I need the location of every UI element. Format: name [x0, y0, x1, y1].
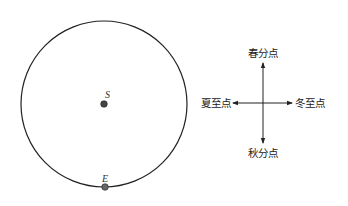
- summer-solstice-label: 夏至点: [201, 97, 231, 109]
- earth-point: E: [101, 173, 108, 190]
- sun-point: S: [101, 89, 110, 107]
- orbit-diagram: S E 春分点 秋分点 夏至点 冬至点: [0, 0, 348, 206]
- earth-label: E: [101, 173, 108, 184]
- vernal-equinox-label: 春分点: [248, 47, 278, 59]
- autumnal-equinox-label: 秋分点: [248, 147, 278, 159]
- sun-label: S: [105, 89, 110, 100]
- compass: 春分点 秋分点 夏至点 冬至点: [201, 47, 325, 159]
- winter-solstice-label: 冬至点: [295, 97, 325, 109]
